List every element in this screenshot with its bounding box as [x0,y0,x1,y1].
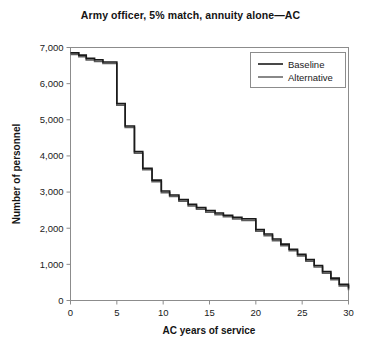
x-tick-label: 10 [158,307,169,318]
y-tick-label: 5,000 [40,114,64,125]
y-axis-title: Number of personnel [11,124,22,225]
series-line-alternative [71,55,349,291]
x-tick-label: 5 [114,307,119,318]
legend-label-baseline: Baseline [288,59,324,70]
x-axis-title: AC years of service [163,325,256,336]
y-axis: 01,0002,0003,0004,0005,0006,0007,000 [40,42,71,306]
x-tick-label: 30 [343,307,354,318]
x-tick-label: 20 [251,307,262,318]
x-tick-label: 15 [204,307,215,318]
legend-label-alternative: Alternative [288,72,333,83]
y-tick-label: 0 [58,295,63,306]
y-tick-label: 6,000 [40,78,64,89]
chart-plot-area: 01,0002,0003,0004,0005,0006,0007,000 051… [0,0,381,345]
y-tick-label: 1,000 [40,259,64,270]
chart-legend: Baseline Alternative [251,53,346,88]
data-series-group [71,53,349,290]
series-line-baseline [71,53,349,289]
x-tick-label: 0 [68,307,73,318]
y-tick-label: 3,000 [40,186,64,197]
y-tick-label: 4,000 [40,150,64,161]
y-tick-label: 2,000 [40,223,64,234]
x-axis: 051015202530 [68,301,354,318]
chart-figure: Army officer, 5% match, annuity alone—AC… [0,0,381,345]
y-tick-label: 7,000 [40,42,64,53]
x-tick-label: 25 [297,307,308,318]
